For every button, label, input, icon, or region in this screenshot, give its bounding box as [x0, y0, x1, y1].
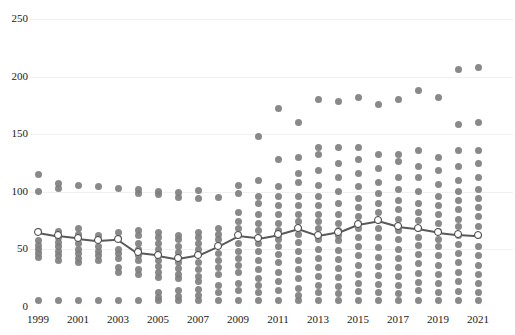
data-point	[455, 66, 462, 73]
data-point	[215, 289, 222, 296]
data-point	[395, 273, 402, 280]
data-point	[255, 248, 262, 255]
data-point	[235, 255, 242, 262]
data-point	[355, 288, 362, 295]
data-point	[455, 197, 462, 204]
data-point	[375, 272, 382, 279]
data-point	[235, 269, 242, 276]
data-point	[475, 271, 482, 278]
data-point	[395, 151, 402, 158]
data-point	[355, 195, 362, 202]
data-point	[455, 188, 462, 195]
data-point	[235, 190, 242, 197]
data-point	[175, 232, 182, 239]
data-point	[295, 154, 302, 161]
data-point	[235, 218, 242, 225]
data-point	[335, 290, 342, 297]
data-point	[375, 263, 382, 270]
data-point	[355, 94, 362, 101]
y-tick-label: 150	[0, 128, 28, 139]
data-point	[95, 297, 102, 304]
data-point	[395, 290, 402, 297]
data-point	[315, 255, 322, 262]
data-point	[375, 209, 382, 216]
data-point	[315, 264, 322, 271]
data-point	[35, 188, 42, 195]
data-point	[195, 259, 202, 266]
median-marker	[34, 228, 42, 236]
data-point	[75, 225, 82, 232]
data-point	[235, 287, 242, 294]
y-tick-label: 200	[0, 71, 28, 82]
data-point	[275, 269, 282, 276]
data-point	[95, 243, 102, 250]
x-tick-label: 2003	[98, 314, 138, 325]
data-point	[455, 288, 462, 295]
median-marker	[434, 228, 442, 236]
data-point	[255, 282, 262, 289]
data-point	[395, 197, 402, 204]
data-point	[335, 256, 342, 263]
data-point	[115, 246, 122, 253]
data-point	[395, 96, 402, 103]
data-point	[475, 147, 482, 154]
data-point	[215, 282, 222, 289]
median-marker	[254, 234, 262, 242]
data-point	[315, 218, 322, 225]
data-point	[255, 200, 262, 207]
data-point	[155, 289, 162, 296]
data-point	[375, 179, 382, 186]
median-marker	[354, 220, 362, 228]
data-point	[135, 227, 142, 234]
x-tick-label: 2001	[58, 314, 98, 325]
data-point	[335, 200, 342, 207]
data-point	[375, 200, 382, 207]
data-point	[415, 209, 422, 216]
data-point	[475, 252, 482, 259]
data-point	[395, 255, 402, 262]
data-point	[475, 64, 482, 71]
data-point	[335, 265, 342, 272]
data-point	[435, 167, 442, 174]
data-point	[135, 266, 142, 273]
data-point	[355, 183, 362, 190]
data-point	[455, 223, 462, 230]
data-point	[235, 240, 242, 247]
data-point	[275, 156, 282, 163]
data-point	[315, 96, 322, 103]
data-point	[215, 264, 222, 271]
data-point	[195, 273, 202, 280]
median-marker	[94, 236, 102, 244]
data-point	[415, 163, 422, 170]
data-point	[235, 182, 242, 189]
data-point	[415, 270, 422, 277]
data-point	[455, 147, 462, 154]
data-point	[315, 144, 322, 151]
data-point	[475, 174, 482, 181]
data-point	[275, 105, 282, 112]
data-point	[355, 280, 362, 287]
data-point	[475, 119, 482, 126]
data-point	[435, 297, 442, 304]
scatter-chart: 050100150200250 199920012003200520072009…	[0, 0, 515, 335]
data-point	[475, 297, 482, 304]
data-point	[295, 119, 302, 126]
data-point	[295, 248, 302, 255]
data-point	[275, 278, 282, 285]
data-point	[135, 297, 142, 304]
data-point	[435, 243, 442, 250]
data-point	[395, 206, 402, 213]
gridline	[30, 77, 513, 78]
data-point	[335, 98, 342, 105]
data-point	[435, 202, 442, 209]
data-point	[395, 186, 402, 193]
data-point	[215, 194, 222, 201]
data-point	[415, 147, 422, 154]
data-point	[335, 283, 342, 290]
median-marker	[274, 230, 282, 238]
y-tick-label: 50	[0, 243, 28, 254]
data-point	[435, 154, 442, 161]
x-tick-label: 2005	[138, 314, 178, 325]
data-point	[395, 236, 402, 243]
data-point	[415, 217, 422, 224]
